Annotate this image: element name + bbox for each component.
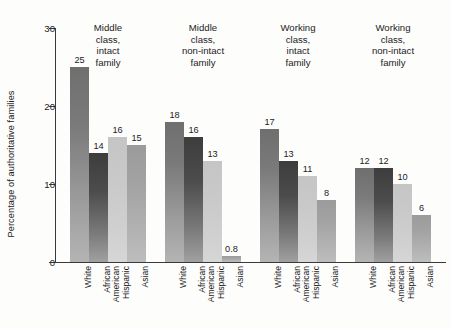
- bar-value-label: 16: [112, 125, 122, 135]
- bar-value-label: 13: [283, 149, 293, 159]
- bar-g2-0: 17: [260, 129, 279, 262]
- bar-g1-3: 0.8: [222, 256, 241, 262]
- group-header-line: Working: [250, 22, 346, 34]
- bar-value-label: 11: [303, 164, 313, 174]
- bar-value-label: 18: [169, 110, 179, 120]
- bar-g3-2: 10: [393, 184, 412, 262]
- bar-g2-2: 11: [298, 176, 317, 262]
- group-header-1: Middleclass,non-intactfamily: [155, 22, 251, 68]
- bar-value-label: 12: [359, 156, 369, 166]
- group-header-line: intact: [60, 45, 156, 57]
- x-axis-label-white: White: [274, 266, 286, 328]
- x-axis-label-asian: Asian: [331, 266, 343, 328]
- x-axis-label-asian: Asian: [141, 266, 153, 328]
- bar-g2-3: 8: [317, 200, 336, 262]
- group-header-line: class,: [250, 34, 346, 46]
- x-axis-label-white: White: [369, 266, 381, 328]
- group-header-line: Middle: [60, 22, 156, 34]
- bar-value-label: 14: [93, 141, 103, 151]
- bar-chart-figure: Percentage of authoritative families 010…: [0, 0, 451, 328]
- bar-value-label: 13: [207, 149, 217, 159]
- group-header-line: non-intact: [155, 45, 251, 57]
- group-header-line: family: [155, 57, 251, 69]
- bar-value-label: 8: [324, 188, 329, 198]
- group-header-line: family: [60, 57, 156, 69]
- y-axis-tick-label: 10: [11, 179, 55, 190]
- x-axis-label-white: White: [179, 266, 191, 328]
- group-header-line: class,: [345, 34, 441, 46]
- group-header-line: intact: [250, 45, 346, 57]
- x-axis-label-african-american: African American: [198, 266, 210, 328]
- bar-value-label: 10: [397, 172, 407, 182]
- x-axis-label-african-american: African American: [388, 266, 400, 328]
- bar-g1-2: 13: [203, 161, 222, 262]
- x-axis-label-asian: Asian: [236, 266, 248, 328]
- x-axis-label-hispanic: Hispanic: [407, 266, 419, 328]
- y-axis-tick-label: 30: [11, 23, 55, 34]
- group-header-line: family: [345, 57, 441, 69]
- x-axis-label-white: White: [84, 266, 96, 328]
- group-header-line: Middle: [155, 22, 251, 34]
- x-axis-label-african-american: African American: [293, 266, 305, 328]
- bar-g0-2: 16: [108, 137, 127, 262]
- bar-g0-0: 25: [70, 67, 89, 262]
- bar-value-label: 15: [131, 133, 141, 143]
- x-axis-line: [55, 262, 446, 263]
- bar-g3-1: 12: [374, 168, 393, 262]
- bar-g0-3: 15: [127, 145, 146, 262]
- y-axis-ticks: 0102030: [0, 0, 55, 328]
- bar-value-label: 12: [378, 156, 388, 166]
- group-header-line: family: [250, 57, 346, 69]
- y-axis-tick-label: 20: [11, 101, 55, 112]
- group-header-line: non-intact: [345, 45, 441, 57]
- x-axis-label-hispanic: Hispanic: [312, 266, 324, 328]
- group-header-line: Working: [345, 22, 441, 34]
- x-axis-label-african-american: African American: [103, 266, 115, 328]
- bar-g3-3: 6: [412, 215, 431, 262]
- bar-g0-1: 14: [89, 153, 108, 262]
- bar-g3-0: 12: [355, 168, 374, 262]
- bar-g2-1: 13: [279, 161, 298, 262]
- y-axis-tick-label: 0: [11, 257, 55, 268]
- group-header-line: class,: [155, 34, 251, 46]
- group-header-line: class,: [60, 34, 156, 46]
- x-axis-label-asian: Asian: [426, 266, 438, 328]
- bar-value-label: 16: [188, 125, 198, 135]
- bar-g1-0: 18: [165, 122, 184, 262]
- group-header-3: Workingclass,non-intactfamily: [345, 22, 441, 68]
- group-header-0: Middleclass,intactfamily: [60, 22, 156, 68]
- x-axis-label-hispanic: Hispanic: [217, 266, 229, 328]
- bar-g1-1: 16: [184, 137, 203, 262]
- bar-value-label: 0.8: [225, 244, 238, 254]
- x-axis-label-hispanic: Hispanic: [122, 266, 134, 328]
- group-header-2: Workingclass,intactfamily: [250, 22, 346, 68]
- bar-value-label: 6: [419, 203, 424, 213]
- bar-value-label: 17: [264, 117, 274, 127]
